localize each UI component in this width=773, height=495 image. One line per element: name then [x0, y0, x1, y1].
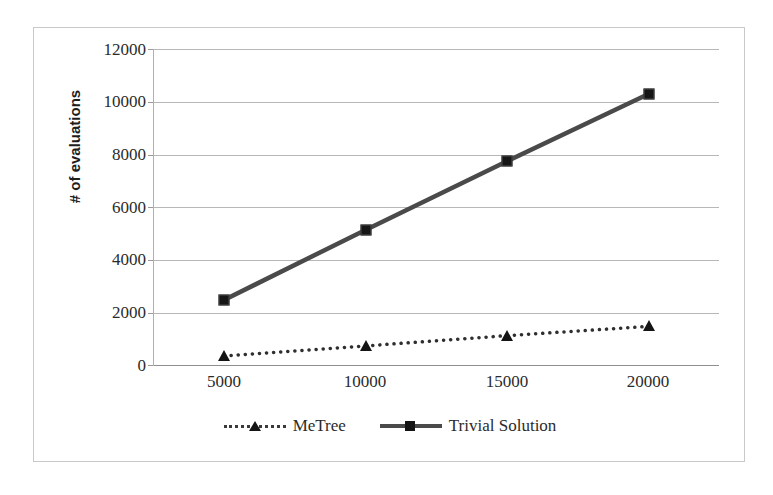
legend-entry-metree[interactable]: MeTree: [224, 416, 346, 436]
x-tick-label: 15000: [486, 373, 529, 390]
data-point-marker: [502, 156, 513, 167]
dotted-triangle-key-icon: [224, 419, 286, 433]
y-tick-label: 6000: [112, 199, 146, 216]
data-point-marker: [360, 340, 372, 351]
legend-entry-trivial-solution[interactable]: Trivial Solution: [380, 416, 557, 436]
x-tick-label: 5000: [207, 373, 241, 390]
legend-label: Trivial Solution: [449, 416, 557, 436]
y-tick-label: 10000: [104, 93, 147, 110]
x-tick-label: 10000: [344, 373, 387, 390]
data-point-marker: [501, 330, 513, 341]
y-tick-label: 0: [138, 357, 147, 374]
x-axis-tick-labels: 5000 10000 15000 20000: [153, 373, 719, 399]
chart-legend: MeTree Trivial Solution: [34, 416, 746, 436]
data-point-marker: [219, 294, 230, 305]
chart-frame: 12000 10000 8000 6000 4000 2000 0 # of e…: [33, 27, 745, 462]
series-line-trivial-solution: [224, 94, 649, 300]
y-tick-label: 4000: [112, 251, 146, 268]
y-tick-label: 2000: [112, 304, 146, 321]
plot-area: [153, 49, 719, 366]
y-tick-label: 8000: [112, 146, 146, 163]
solid-square-key-icon: [380, 419, 442, 433]
x-tick-label: 20000: [627, 373, 670, 390]
y-axis-title: # of evaluations: [66, 47, 83, 247]
data-point-marker: [643, 88, 654, 99]
y-tick-label: 12000: [104, 41, 147, 58]
series-line-metree: [224, 326, 649, 356]
legend-label: MeTree: [293, 416, 346, 436]
series-lines: [153, 49, 719, 366]
data-point-marker: [360, 224, 371, 235]
y-axis-tick-labels: 12000 10000 8000 6000 4000 2000 0: [34, 49, 146, 366]
data-point-marker: [218, 350, 230, 361]
data-point-marker: [643, 320, 655, 331]
